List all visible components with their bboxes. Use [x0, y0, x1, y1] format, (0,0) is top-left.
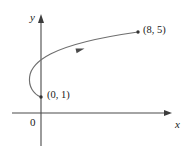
graph-figure: y x 0 (8, 5) (0, 1)	[0, 0, 189, 154]
origin-label: 0	[30, 117, 36, 128]
x-axis-label: x	[175, 119, 180, 130]
start-point-label: (0, 1)	[47, 90, 70, 101]
y-axis-arrowhead	[38, 14, 44, 23]
end-point-label: (8, 5)	[143, 25, 166, 36]
curve-path	[29, 32, 138, 97]
y-axis-label: y	[30, 12, 35, 23]
end-point-marker	[136, 30, 139, 33]
curve-direction-arrow	[76, 49, 85, 54]
x-axis-arrowhead	[164, 110, 172, 116]
start-point-marker	[39, 95, 42, 98]
